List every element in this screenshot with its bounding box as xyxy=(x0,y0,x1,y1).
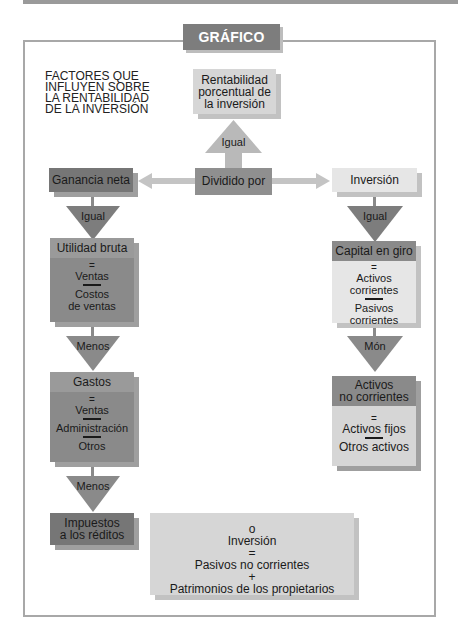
arrow-label: Igual xyxy=(205,136,262,148)
expenses-box: Gastos = Ventas Administración Otros xyxy=(50,372,134,462)
box-item: Pasivos xyxy=(332,302,416,314)
box-title: Activos no corrientes xyxy=(332,376,416,406)
box-title: Capital en giro xyxy=(332,241,416,261)
alt-line: Patrimonios de los propietarios xyxy=(150,583,354,595)
box-title: Utilidad bruta xyxy=(50,238,134,258)
minus-sign xyxy=(365,298,383,300)
income-tax-box: Impuestos a los réditos xyxy=(50,513,134,545)
box-item: Ventas xyxy=(50,404,134,416)
minus-sign xyxy=(365,437,383,439)
divided-by-box: Dividido por xyxy=(195,168,272,195)
arrow-label: Igual xyxy=(66,210,120,222)
gross-profit-box: Utilidad bruta = Ventas Costos de ventas xyxy=(50,238,134,322)
equals-sign: = xyxy=(332,263,416,272)
box-item: Costos xyxy=(50,288,134,300)
equals-sign: = xyxy=(50,261,134,270)
minus-sign xyxy=(83,418,101,420)
box-item: Otros activos xyxy=(332,441,416,453)
box-item: de ventas xyxy=(50,300,134,312)
working-capital-box: Capital en giro = Activos corrientes Pas… xyxy=(332,241,416,323)
arrow-label: Menos xyxy=(66,340,120,352)
box-item: Ventas xyxy=(50,270,134,282)
arrow-label: Igual xyxy=(347,210,403,222)
minus-sign xyxy=(83,436,101,438)
investment-alt-box: o Inversión = Pasivos no corrientes + Pa… xyxy=(150,513,354,595)
equals-sign: = xyxy=(50,395,134,404)
box-title-line: no corrientes xyxy=(332,391,416,403)
box-line: a los réditos xyxy=(50,529,134,541)
box-item: Otros xyxy=(50,440,134,452)
arrow-label: Menos xyxy=(66,480,120,492)
box-item: corrientes xyxy=(332,314,416,326)
investment-box: Inversión xyxy=(332,168,417,192)
box-item: Activos fijos xyxy=(332,423,416,435)
minus-sign xyxy=(83,284,101,286)
arrow-label: Món xyxy=(347,340,403,352)
box-item: Activos xyxy=(332,272,416,284)
box-item: corrientes xyxy=(332,284,416,296)
box-title: Gastos xyxy=(50,372,134,392)
net-income-box: Ganancia neta xyxy=(49,168,133,192)
noncurrent-assets-box: Activos no corrientes = Activos fijos Ot… xyxy=(332,376,416,466)
box-item: Administración xyxy=(50,422,134,434)
